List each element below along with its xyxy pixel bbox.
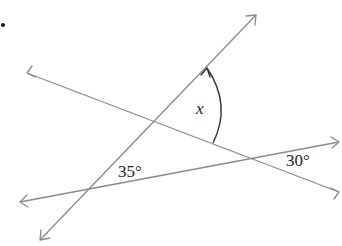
angle-x-arc — [201, 68, 221, 143]
angle-30-label: 30° — [286, 152, 310, 169]
angle-35-label: 35° — [118, 163, 142, 180]
angle-x-label: x — [196, 100, 204, 117]
line-a — [40, 15, 256, 240]
line-c — [20, 137, 339, 207]
line-b — [27, 66, 339, 199]
geometry-diagram — [0, 0, 342, 246]
